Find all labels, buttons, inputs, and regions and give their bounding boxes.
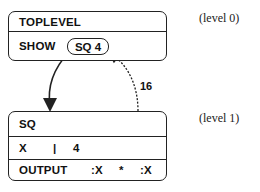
sq-title-row: SQ [9,112,166,136]
sq-call-text: SQ 4 [75,41,101,53]
binding-value: 4 [73,137,80,159]
binding-row: X | 4 [9,137,166,159]
sq-frame: SQ X | 4 OUTPUT :X * :X [8,111,167,181]
toplevel-title-row: TOPLEVEL [9,12,166,31]
level-1-label: (level 1) [199,111,239,126]
body-row: OUTPUT :X * :X [9,160,166,180]
output-arg-1: :X [91,160,103,180]
return-arrow [114,56,138,111]
multiply-operator: * [119,160,124,180]
level-0-label: (level 0) [199,11,239,26]
toplevel-title: TOPLEVEL [19,16,81,28]
sq-title: SQ [19,118,36,130]
sq-call-pill[interactable]: SQ 4 [67,38,109,55]
output-command: OUTPUT [19,160,67,180]
show-command: SHOW [19,40,56,52]
return-value-label: 16 [140,80,152,92]
call-arrowhead [43,98,57,112]
output-arg-2: :X [140,160,152,180]
binding-name: X [19,137,27,159]
binding-separator: | [53,137,56,159]
